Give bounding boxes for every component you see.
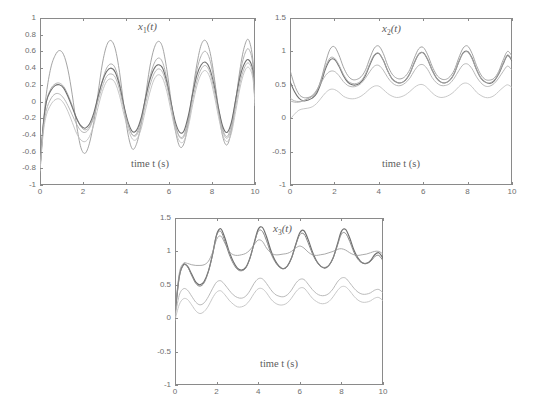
ytick-label: 0 xyxy=(143,314,171,322)
ytick-label: 0.4 xyxy=(8,64,36,72)
xtick-label: 8 xyxy=(339,388,343,396)
xtick-label: 0 xyxy=(173,388,177,396)
series-line xyxy=(290,83,512,119)
ytick-label: 0.5 xyxy=(143,281,171,289)
ytick-label: 0.5 xyxy=(258,81,286,89)
ytick-mark xyxy=(290,85,293,86)
xtick-mark-top xyxy=(379,18,380,21)
series-line xyxy=(290,46,512,98)
xtick-mark xyxy=(379,182,380,185)
xtick-mark-top xyxy=(290,18,291,21)
xtick-mark-top xyxy=(255,18,256,21)
xtick-label: 0 xyxy=(38,188,42,196)
ytick-mark xyxy=(290,51,293,52)
xtick-label: 8 xyxy=(465,188,469,196)
xtick-mark xyxy=(383,382,384,385)
xtick-label: 6 xyxy=(298,388,302,396)
xtick-mark xyxy=(175,382,176,385)
xtick-mark xyxy=(40,182,41,185)
ytick-mark xyxy=(290,185,293,186)
ytick-mark xyxy=(40,135,43,136)
xtick-label: 10 xyxy=(251,188,260,196)
ytick-mark xyxy=(175,385,178,386)
xtick-mark-top xyxy=(126,18,127,21)
xtick-mark xyxy=(83,182,84,185)
ytick-label: -1 xyxy=(258,181,286,189)
ytick-label: 0 xyxy=(258,114,286,122)
ytick-label: 0 xyxy=(8,98,36,106)
xtick-mark-top xyxy=(169,18,170,21)
ytick-label: 1.5 xyxy=(258,14,286,22)
xtick-label: 10 xyxy=(379,388,388,396)
ytick-mark xyxy=(40,51,43,52)
xtick-mark-top xyxy=(512,18,513,21)
panel-x3: -1-0.500.511.50246810 x3(t) time t (s) xyxy=(135,204,405,404)
ytick-mark xyxy=(290,152,293,153)
xtick-label: 10 xyxy=(508,188,517,196)
ytick-label: -1 xyxy=(8,181,36,189)
xtick-mark xyxy=(334,182,335,185)
xtick-label: 2 xyxy=(81,188,85,196)
xtick-mark xyxy=(217,382,218,385)
plot-curves-x1 xyxy=(0,0,265,200)
xtick-mark xyxy=(258,382,259,385)
plot-title-x1: x1(t) xyxy=(138,20,157,35)
series-line xyxy=(290,51,512,101)
plot-title-tail-x1: (t) xyxy=(147,20,157,32)
xtick-mark xyxy=(423,182,424,185)
series-line xyxy=(175,286,383,320)
ytick-mark xyxy=(175,285,178,286)
xtick-mark xyxy=(341,382,342,385)
plot-title-x3: x3(t) xyxy=(273,222,292,237)
ytick-label: 1 xyxy=(8,14,36,22)
ytick-label: 1.5 xyxy=(143,214,171,222)
figure-canvas: -1-0.8-0.6-0.4-0.200.20.40.60.810246810 … xyxy=(0,0,535,404)
xtick-label: 0 xyxy=(288,188,292,196)
xtick-label: 4 xyxy=(124,188,128,196)
series-line xyxy=(175,227,383,315)
xtick-mark-top xyxy=(334,18,335,21)
xtick-mark xyxy=(212,182,213,185)
xtick-mark-top xyxy=(40,18,41,21)
xtick-mark-top xyxy=(468,18,469,21)
plot-title-tail-x3: (t) xyxy=(282,222,292,234)
xtick-label: 2 xyxy=(332,188,336,196)
xtick-label: 2 xyxy=(214,388,218,396)
plot-curves-x3 xyxy=(135,204,405,404)
xtick-label: 8 xyxy=(210,188,214,196)
xtick-mark-top xyxy=(175,218,176,221)
ytick-mark xyxy=(175,318,178,319)
xtick-mark-top xyxy=(300,218,301,221)
ytick-mark xyxy=(40,35,43,36)
xtick-label: 6 xyxy=(421,188,425,196)
ytick-label: 0.8 xyxy=(8,31,36,39)
ytick-label: -0.2 xyxy=(8,114,36,122)
ytick-label: -0.8 xyxy=(8,164,36,172)
xtick-mark-top xyxy=(217,218,218,221)
ytick-label: -0.5 xyxy=(258,148,286,156)
xtick-label: 6 xyxy=(167,188,171,196)
series-line xyxy=(40,63,255,168)
panel-x2: -1-0.500.511.50246810 x2(t) time t (s) xyxy=(265,0,535,200)
xaxis-label-x3: time t (s) xyxy=(260,358,298,369)
xtick-label: 4 xyxy=(377,188,381,196)
ytick-label: 0.2 xyxy=(8,81,36,89)
xtick-mark-top xyxy=(341,218,342,221)
xtick-mark-top xyxy=(212,18,213,21)
xtick-mark-top xyxy=(423,18,424,21)
xtick-mark xyxy=(300,382,301,385)
panel-x1: -1-0.8-0.6-0.4-0.200.20.40.60.810246810 … xyxy=(0,0,265,200)
series-line xyxy=(175,278,383,317)
ytick-label: -0.6 xyxy=(8,148,36,156)
xaxis-label-x1: time t (s) xyxy=(131,158,169,169)
xtick-mark-top xyxy=(83,18,84,21)
ytick-label: -1 xyxy=(143,381,171,389)
xaxis-label-x2: time t (s) xyxy=(382,158,420,169)
ytick-label: 1 xyxy=(143,247,171,255)
ytick-mark xyxy=(40,152,43,153)
ytick-mark xyxy=(40,85,43,86)
xtick-mark-top xyxy=(383,218,384,221)
ytick-label: 1 xyxy=(258,47,286,55)
ytick-label: -0.4 xyxy=(8,131,36,139)
ytick-label: -0.5 xyxy=(143,348,171,356)
